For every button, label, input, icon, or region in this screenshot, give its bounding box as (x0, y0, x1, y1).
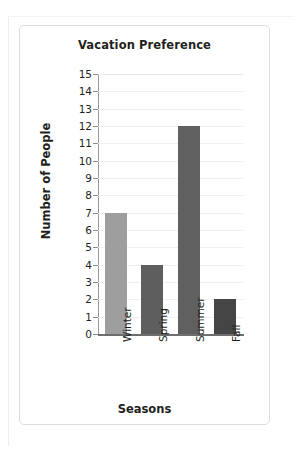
y-axis-tick-mark (93, 74, 98, 75)
x-axis-title: Seasons (20, 402, 269, 416)
x-axis-tick-label-winter: Winter (121, 307, 133, 342)
y-axis-tick-label: 4 (52, 260, 92, 271)
gridline (98, 178, 243, 179)
gridline (98, 195, 243, 196)
x-axis-tick-label-fall: Fall (230, 325, 242, 342)
page-edge-top (8, 16, 294, 17)
gridline (98, 74, 243, 75)
y-axis-tick-label: 14 (52, 86, 92, 97)
y-axis-tick-label: 8 (52, 190, 92, 201)
y-axis-tick-label: 11 (52, 138, 92, 149)
y-axis-tick-label: 15 (52, 69, 92, 80)
y-axis-tick-mark (93, 334, 98, 335)
chart-card: Vacation Preference Number of People 151… (19, 25, 270, 425)
y-axis-tick-label: 10 (52, 156, 92, 167)
y-axis-tick-label: 12 (52, 121, 92, 132)
y-axis-tick-mark (93, 213, 98, 214)
y-axis-tick-label: 5 (52, 242, 92, 253)
y-axis-tick-label: 0 (52, 329, 92, 340)
gridline (98, 161, 243, 162)
y-axis-tick-label: 3 (52, 277, 92, 288)
plot-area (98, 74, 243, 334)
y-axis-tick-mark (93, 247, 98, 248)
x-axis-tick-label-spring: Spring (157, 308, 169, 342)
y-axis-tick-mark (93, 109, 98, 110)
y-axis-tick-mark (93, 91, 98, 92)
y-axis-tick-label: 2 (52, 294, 92, 305)
gridline (98, 143, 243, 144)
y-axis-tick-label: 1 (52, 312, 92, 323)
y-axis-tick-labels: 1514131211109876543210 (46, 26, 92, 426)
y-axis-tick-mark (93, 178, 98, 179)
y-axis-tick-mark (93, 230, 98, 231)
y-axis-tick-mark (93, 195, 98, 196)
y-axis-tick-label: 9 (52, 173, 92, 184)
y-axis-tick-label: 13 (52, 104, 92, 115)
y-axis-tick-mark (93, 126, 98, 127)
y-axis-tick-label: 7 (52, 208, 92, 219)
x-axis-tick-labels: WinterSpringSummerFall (98, 336, 243, 398)
x-axis-tick-label-summer: Summer (194, 297, 206, 342)
y-axis-tick-label: 6 (52, 225, 92, 236)
gridline (98, 126, 243, 127)
y-axis-tick-mark (93, 161, 98, 162)
y-axis-tick-mark (93, 299, 98, 300)
y-axis-tick-mark (93, 317, 98, 318)
gridline (98, 91, 243, 92)
gridline (98, 109, 243, 110)
y-axis-tick-mark (93, 282, 98, 283)
page-edge-left (8, 16, 9, 446)
y-axis-tick-mark (93, 143, 98, 144)
y-axis-tick-mark (93, 265, 98, 266)
